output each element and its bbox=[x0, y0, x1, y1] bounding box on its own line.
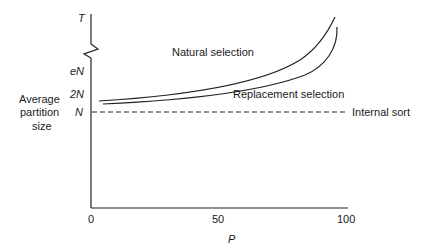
tick-label-x100: 100 bbox=[337, 213, 355, 225]
tick-label-eN: eN bbox=[70, 65, 84, 77]
tick-label-T: T bbox=[78, 12, 85, 24]
tick-label-N: N bbox=[75, 106, 83, 118]
y-axis-title-line1: Average bbox=[19, 93, 60, 105]
y-axis-title-line2: partition bbox=[20, 106, 59, 118]
label-replacement-selection: Replacement selection bbox=[233, 88, 344, 100]
tick-label-2N: 2N bbox=[70, 88, 84, 100]
tick-label-x0: 0 bbox=[88, 213, 94, 225]
label-natural-selection: Natural selection bbox=[172, 46, 254, 58]
x-axis-title: P bbox=[228, 233, 235, 245]
label-internal-sort: Internal sort bbox=[352, 106, 410, 118]
y-axis-title-line3: size bbox=[32, 120, 52, 132]
axis-break-icon bbox=[84, 44, 98, 58]
tick-label-x50: 50 bbox=[212, 213, 224, 225]
